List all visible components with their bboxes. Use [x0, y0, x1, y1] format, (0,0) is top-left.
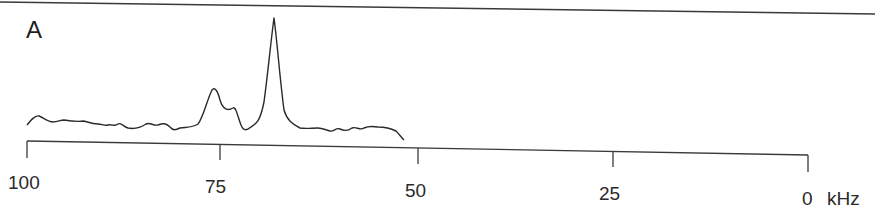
spectrum-trace: [27, 18, 404, 140]
tick-label-75: 75: [205, 176, 226, 198]
panel-label: A: [26, 16, 42, 44]
tick-label-0: 0: [802, 188, 813, 210]
tick-label-25: 25: [599, 183, 620, 205]
tick-label-100: 100: [8, 172, 40, 194]
spectrum-figure: [0, 0, 887, 217]
tick-label-50: 50: [405, 180, 426, 202]
axis-unit-label: kHz: [827, 188, 860, 210]
top-border-line: [0, 2, 875, 14]
